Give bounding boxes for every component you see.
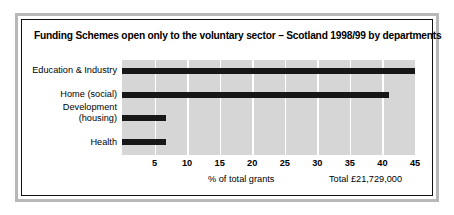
x-tick-label: 30: [312, 158, 322, 168]
x-tick-label: 10: [182, 158, 192, 168]
gridline-45: [415, 60, 417, 155]
chart-body: Education & IndustryHome (social)Develop…: [22, 54, 432, 195]
x-tick-label: 20: [247, 158, 257, 168]
bar: [122, 68, 415, 74]
bar: [122, 115, 166, 121]
x-tick-label: 5: [152, 158, 157, 168]
x-tick-label: 25: [280, 158, 290, 168]
category-label: Health: [22, 137, 117, 148]
gridline-30: [317, 60, 319, 155]
category-label-line1: Health: [90, 137, 117, 147]
gridline-25: [285, 60, 287, 155]
category-label-line2: (housing): [22, 113, 117, 124]
gridline-35: [350, 60, 352, 155]
category-label: Home (social): [22, 89, 117, 100]
chart-frame: Funding Schemes open only to the volunta…: [15, 13, 439, 202]
gridline-20: [252, 60, 254, 155]
plot-area: [122, 60, 415, 155]
category-label-line1: Home (social): [60, 89, 117, 99]
bar: [122, 139, 166, 145]
chart-title: Funding Schemes open only to the volunta…: [34, 30, 424, 41]
category-label-line1: Development: [63, 102, 117, 112]
gridline-15: [220, 60, 222, 155]
x-axis-tick-labels: 51015202530354045: [122, 158, 415, 172]
x-tick-label: 35: [345, 158, 355, 168]
x-tick-label: 15: [215, 158, 225, 168]
chart-footer: % of total grants Total £21,729,000: [122, 174, 422, 188]
bar: [122, 92, 389, 98]
x-tick-label: 45: [410, 158, 420, 168]
chart-inner-border: Funding Schemes open only to the volunta…: [21, 19, 433, 196]
gridline-10: [187, 60, 189, 155]
category-label: Education & Industry: [22, 65, 117, 76]
category-label: Development(housing): [22, 102, 117, 124]
gridline-40: [382, 60, 384, 155]
category-label-line1: Education & Industry: [32, 65, 117, 75]
x-tick-label: 40: [377, 158, 387, 168]
x-axis-caption: % of total grants: [208, 174, 274, 184]
category-axis-labels: Education & IndustryHome (social)Develop…: [22, 60, 117, 155]
total-grants-annotation: Total £21,729,000: [329, 174, 402, 184]
